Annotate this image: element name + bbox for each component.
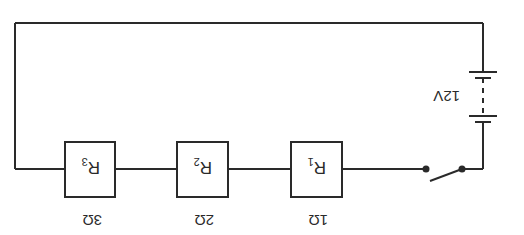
resistor-r1-value: 1Ω bbox=[308, 212, 328, 229]
switch bbox=[423, 166, 466, 182]
switch-lever bbox=[430, 169, 462, 181]
resistor-r2-value: 2Ω bbox=[194, 212, 214, 229]
resistor-r1: R1 1Ω bbox=[291, 142, 342, 229]
battery-label: 12V bbox=[433, 88, 460, 105]
battery: 12V bbox=[433, 72, 497, 122]
circuit-diagram: 12V R1 1Ω R2 2Ω R3 bbox=[0, 0, 524, 235]
circuit-svg: 12V R1 1Ω R2 2Ω R3 bbox=[0, 0, 524, 235]
resistor-r3-value: 3Ω bbox=[82, 212, 102, 229]
resistor-r2: R2 2Ω bbox=[177, 142, 228, 229]
resistor-r3: R3 3Ω bbox=[65, 142, 115, 229]
switch-terminal-2 bbox=[423, 166, 430, 173]
